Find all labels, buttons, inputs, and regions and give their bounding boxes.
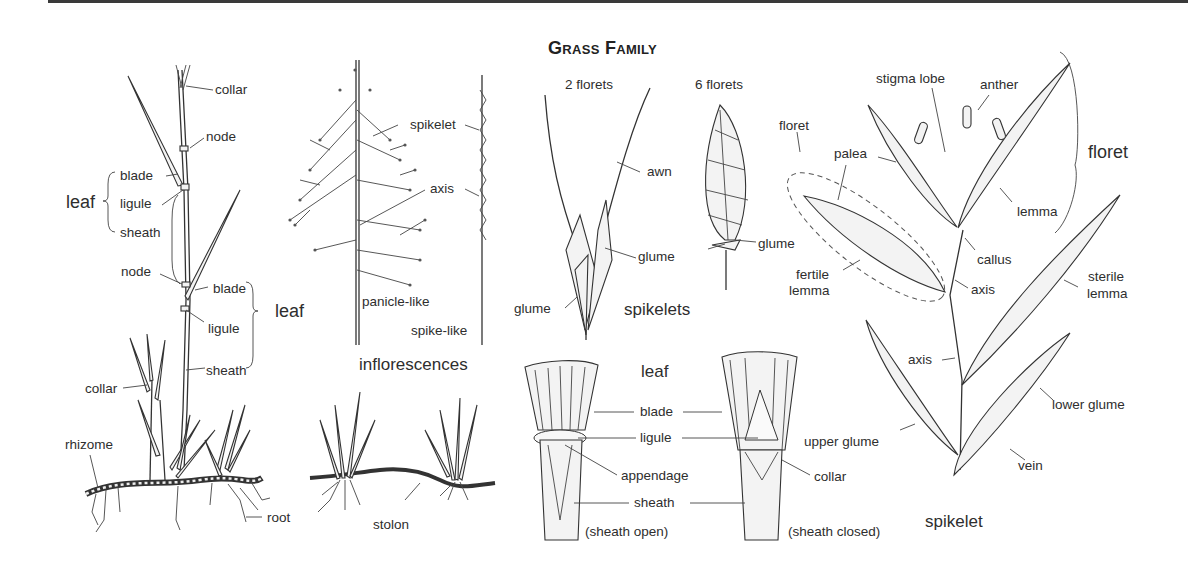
label-sterile: sterile <box>1088 270 1124 284</box>
label-ligule: ligule <box>640 431 672 445</box>
label-sheath-1: sheath <box>120 226 161 240</box>
label-floret-left: floret <box>779 119 809 133</box>
caption-spikelet: spikelet <box>925 513 983 530</box>
sheath-open-drawing <box>525 361 598 540</box>
label-blade-2: blade <box>213 282 246 296</box>
label-2-florets: 2 florets <box>565 78 613 92</box>
label-collar: collar <box>814 470 846 484</box>
label-spikelet: spikelet <box>410 118 456 132</box>
label-spike-like: spike-like <box>411 324 467 338</box>
label-fertile-lemma: lemma <box>789 284 830 298</box>
label-appendage: appendage <box>621 469 689 483</box>
six-floret-spikelet-drawing <box>706 105 748 290</box>
label-fertile: fertile <box>796 268 829 282</box>
label-ligule-2: ligule <box>208 322 240 336</box>
label-glume-right: glume <box>758 237 795 251</box>
label-6-florets: 6 florets <box>695 78 743 92</box>
spike-drawing <box>480 75 486 345</box>
label-node-top: node <box>206 130 236 144</box>
label-palea: palea <box>834 147 867 161</box>
label-callus: callus <box>977 253 1012 267</box>
label-blade-1: blade <box>120 169 153 183</box>
label-lower-glume: lower glume <box>1052 398 1125 412</box>
label-axis: axis <box>430 182 454 196</box>
caption-spikelets: spikelets <box>624 301 690 318</box>
label-sheath: sheath <box>634 496 675 510</box>
label-panicle-like: panicle-like <box>362 295 430 309</box>
label-rhizome: rhizome <box>65 438 113 452</box>
label-axis-top: axis <box>971 283 995 297</box>
label-awn: awn <box>647 165 672 179</box>
label-sheath-closed: (sheath closed) <box>788 525 880 539</box>
label-upper-glume: upper glume <box>804 435 879 449</box>
grass-plant-drawing <box>86 65 270 532</box>
label-root: root <box>267 511 290 525</box>
label-ligule-1: ligule <box>120 197 152 211</box>
label-glume-mid: glume <box>638 250 675 264</box>
label-collar-low: collar <box>85 382 117 396</box>
label-anther: anther <box>980 78 1018 92</box>
label-blade: blade <box>640 405 673 419</box>
sheath-closed-drawing <box>722 352 797 540</box>
label-floret-right: floret <box>1088 143 1128 161</box>
label-vein: vein <box>1018 459 1043 473</box>
label-sheath-2: sheath <box>206 364 247 378</box>
caption-leaf: leaf <box>641 363 668 380</box>
label-axis-low: axis <box>908 353 932 367</box>
stolon-plant-drawing <box>310 392 495 512</box>
label-collar-top: collar <box>215 83 247 97</box>
label-leaf-1: leaf <box>66 193 95 211</box>
label-sheath-open: (sheath open) <box>585 525 668 539</box>
caption-inflorescences: inflorescences <box>359 356 468 373</box>
label-stolon: stolon <box>373 518 409 532</box>
label-node-2: node <box>121 265 151 279</box>
label-lemma: lemma <box>1017 205 1058 219</box>
label-glume-low: glume <box>514 302 551 316</box>
label-leaf-2: leaf <box>275 302 304 320</box>
label-sterile-lemma: lemma <box>1087 287 1128 301</box>
label-stigma-lobe: stigma lobe <box>876 72 945 86</box>
